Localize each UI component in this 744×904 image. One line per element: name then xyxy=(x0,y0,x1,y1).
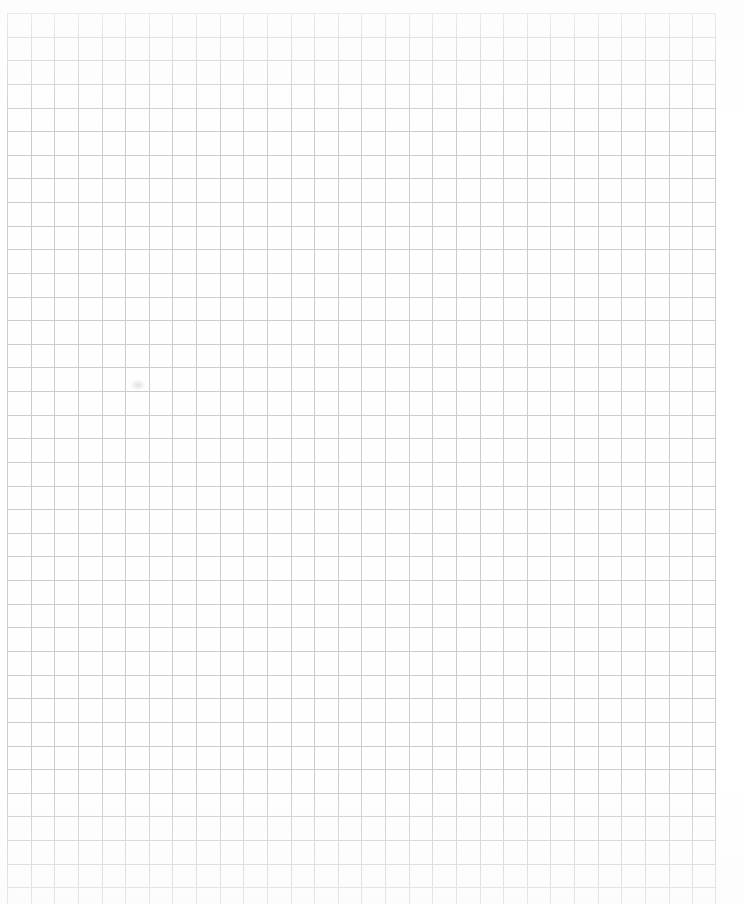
grid-lines xyxy=(7,13,716,904)
grid-paper-page: Blank Grid Paper Blank scanned sheet of … xyxy=(0,0,744,904)
top-margin xyxy=(0,0,744,13)
left-margin xyxy=(0,0,7,904)
right-margin xyxy=(716,0,744,904)
grid-area xyxy=(7,13,716,904)
